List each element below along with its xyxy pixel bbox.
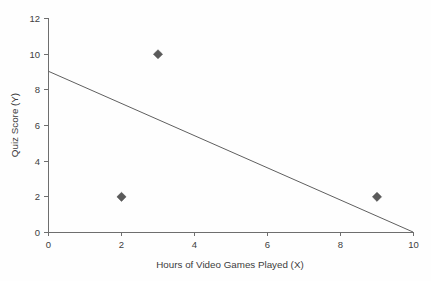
y-tick-label: 6 (35, 120, 40, 131)
x-axis-title: Hours of Video Games Played (X) (156, 259, 303, 270)
y-tick-label: 4 (35, 156, 40, 167)
scatter-chart-figure: 12 10 8 6 4 2 0 0 2 4 6 8 10 Quiz Score … (0, 0, 431, 281)
x-tick-label: 8 (338, 239, 343, 250)
x-tick-label: 6 (265, 239, 270, 250)
y-tick-label: 12 (29, 13, 40, 24)
chart-background (0, 0, 431, 281)
y-tick-label: 8 (35, 84, 40, 95)
y-tick-label: 0 (35, 227, 40, 238)
y-tick-label: 2 (35, 191, 40, 202)
x-tick-label: 0 (46, 239, 51, 250)
x-tick-label: 10 (408, 239, 419, 250)
y-tick-label: 10 (29, 49, 40, 60)
x-tick-label: 4 (192, 239, 197, 250)
chart-canvas: 12 10 8 6 4 2 0 0 2 4 6 8 10 Quiz Score … (0, 0, 431, 281)
x-tick-label: 2 (119, 239, 124, 250)
y-axis-title: Quiz Score (Y) (9, 93, 20, 157)
